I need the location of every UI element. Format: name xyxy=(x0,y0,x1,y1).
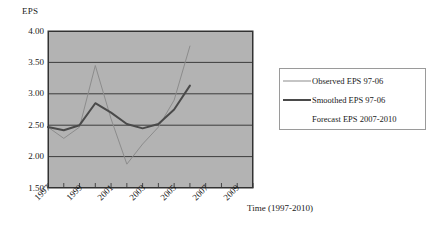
legend-label-forecast: Forecast EPS 2007-2010 xyxy=(312,114,397,124)
legend-item-smoothed: Smoothed EPS 97-06 xyxy=(280,90,425,110)
legend: Observed EPS 97-06 Smoothed EPS 97-06 Fo… xyxy=(279,68,426,130)
legend-line-swatch-observed-icon xyxy=(282,76,312,86)
plot-area-border xyxy=(48,31,253,188)
legend-line-swatch-forecast-icon xyxy=(282,114,312,124)
eps-line-chart: EPS 4.003.503.002.502.001.50 19971999200… xyxy=(0,0,432,236)
legend-label-observed: Observed EPS 97-06 xyxy=(312,76,383,86)
series-line xyxy=(48,46,190,164)
series-line xyxy=(48,86,190,131)
legend-label-smoothed: Smoothed EPS 97-06 xyxy=(312,95,385,105)
legend-item-forecast: Forecast EPS 2007-2010 xyxy=(280,109,425,129)
x-axis-title: Time (1997-2010) xyxy=(247,203,313,213)
legend-line-swatch-smoothed-icon xyxy=(282,95,312,105)
legend-item-observed: Observed EPS 97-06 xyxy=(280,71,425,91)
